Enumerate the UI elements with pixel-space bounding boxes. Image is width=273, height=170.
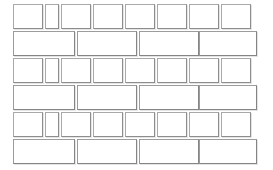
brick-cell-r0-c2[interactable] xyxy=(61,4,91,29)
brick-cell-r3-c0[interactable] xyxy=(13,85,75,110)
brick-cell-r1-c1[interactable] xyxy=(77,31,137,56)
brick-cell-r0-c4[interactable] xyxy=(125,4,155,29)
brick-cell-r2-c7[interactable] xyxy=(221,58,251,83)
brick-cell-r3-c1[interactable] xyxy=(77,85,137,110)
brick-cell-r1-c3[interactable] xyxy=(199,31,257,56)
brick-cell-r0-c5[interactable] xyxy=(157,4,187,29)
brick-cell-r1-c0[interactable] xyxy=(13,31,75,56)
brick-grid-canvas xyxy=(0,0,273,170)
brick-cell-r4-c4[interactable] xyxy=(125,112,155,137)
brick-cell-r2-c4[interactable] xyxy=(125,58,155,83)
brick-cell-r2-c0[interactable] xyxy=(13,58,43,83)
brick-cell-r2-c3[interactable] xyxy=(93,58,123,83)
brick-cell-r2-c5[interactable] xyxy=(157,58,187,83)
brick-cell-r5-c3[interactable] xyxy=(199,139,257,164)
brick-cell-r5-c1[interactable] xyxy=(77,139,137,164)
brick-cell-r3-c2[interactable] xyxy=(139,85,199,110)
brick-cell-r0-c1[interactable] xyxy=(45,4,59,29)
brick-cell-r3-c3[interactable] xyxy=(199,85,257,110)
brick-cell-r2-c1[interactable] xyxy=(45,58,59,83)
brick-cell-r4-c1[interactable] xyxy=(45,112,59,137)
brick-cell-r4-c3[interactable] xyxy=(93,112,123,137)
brick-cell-r1-c2[interactable] xyxy=(139,31,199,56)
brick-cell-r4-c2[interactable] xyxy=(61,112,91,137)
brick-cell-r4-c7[interactable] xyxy=(221,112,251,137)
brick-cell-r5-c2[interactable] xyxy=(139,139,199,164)
brick-cell-r5-c0[interactable] xyxy=(13,139,75,164)
brick-cell-r0-c0[interactable] xyxy=(13,4,43,29)
brick-cell-r4-c0[interactable] xyxy=(13,112,43,137)
brick-cell-r4-c6[interactable] xyxy=(189,112,219,137)
brick-cell-r0-c3[interactable] xyxy=(93,4,123,29)
brick-cell-r2-c2[interactable] xyxy=(61,58,91,83)
brick-cell-r2-c6[interactable] xyxy=(189,58,219,83)
brick-cell-r4-c5[interactable] xyxy=(157,112,187,137)
brick-cell-r0-c7[interactable] xyxy=(221,4,251,29)
brick-cell-r0-c6[interactable] xyxy=(189,4,219,29)
